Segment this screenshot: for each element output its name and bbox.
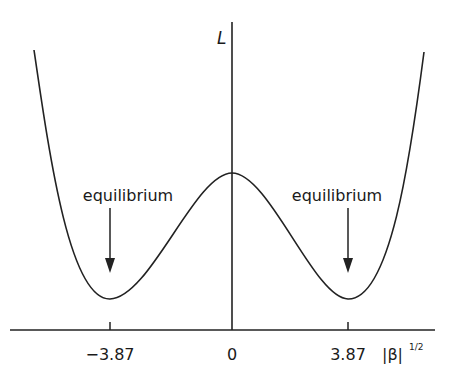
annotation-right: equilibrium	[292, 186, 382, 205]
annotation-left: equilibrium	[83, 186, 173, 205]
potential-curve	[34, 50, 424, 299]
chart-root: equilibrium equilibrium L −3.87 0 3.87 |…	[0, 0, 463, 386]
arrow-right-head-icon	[343, 258, 353, 273]
y-axis-label: L	[217, 28, 226, 48]
double-well-chart: equilibrium equilibrium L −3.87 0 3.87 |…	[0, 0, 463, 386]
x-axis-label: |β|	[382, 345, 403, 364]
arrow-left-head-icon	[105, 258, 115, 273]
tick-label-zero: 0	[227, 345, 237, 364]
tick-label-pos: 3.87	[330, 345, 366, 364]
x-axis-label-superscript: 1/2	[409, 342, 423, 352]
tick-label-neg: −3.87	[85, 345, 134, 364]
